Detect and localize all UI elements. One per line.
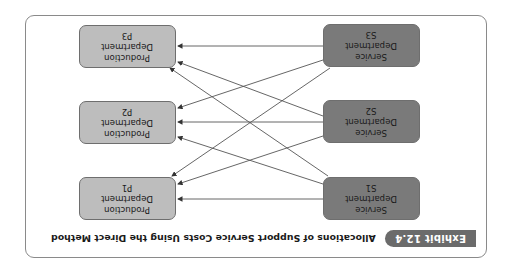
production-department-p3: Production Department P3 xyxy=(79,25,176,68)
production-department-p1: Production Department P1 xyxy=(79,177,176,220)
box-label: Department xyxy=(345,116,397,127)
box-label: Department xyxy=(101,117,153,128)
box-id: S1 xyxy=(345,182,397,193)
box-label: Service xyxy=(345,51,397,62)
exhibit-title: Allocations of Support Service Costs Usi… xyxy=(51,230,376,247)
exhibit-header: Exhibit 12.4 Allocations of Support Serv… xyxy=(36,230,476,248)
exhibit-title-text: Allocations of Support Service Costs Usi… xyxy=(51,233,376,244)
box-label: Department xyxy=(101,41,153,52)
box-id: P2 xyxy=(101,106,153,117)
box-id: S2 xyxy=(345,105,397,116)
box-id: P1 xyxy=(101,182,153,193)
box-id: P3 xyxy=(101,30,153,41)
box-label: Production xyxy=(101,204,153,215)
arrow-s3-p2 xyxy=(178,60,323,108)
arrow-s2-p3 xyxy=(178,62,323,116)
box-label: Department xyxy=(101,193,153,204)
service-department-s2: Service Department S2 xyxy=(323,100,420,143)
production-department-p2: Production Department P2 xyxy=(79,101,176,144)
box-id: S3 xyxy=(345,29,397,40)
box-label: Production xyxy=(101,128,153,139)
exhibit-badge: Exhibit 12.4 xyxy=(385,230,476,247)
box-label: Service xyxy=(345,127,397,138)
box-label: Department xyxy=(345,193,397,204)
service-department-s3: Service Department S3 xyxy=(323,24,420,67)
box-label: Service xyxy=(345,204,397,215)
service-department-s1: Service Department S1 xyxy=(323,177,420,220)
box-label: Production xyxy=(101,52,153,63)
exhibit-number: Exhibit 12.4 xyxy=(395,233,466,244)
box-label: Department xyxy=(345,40,397,51)
